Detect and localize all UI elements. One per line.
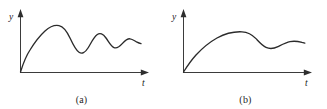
panel-a: y t (a) <box>0 0 163 109</box>
t-axis-label-b: t <box>305 78 308 88</box>
plot-b-canvas: y t <box>164 0 327 109</box>
y-axis-arrow-b <box>181 9 187 17</box>
figure-container: y t (a) y t (b) <box>0 0 327 109</box>
y-axis-label-a: y <box>8 12 14 22</box>
plot-a-canvas: y t <box>0 0 163 109</box>
y-axis-arrow-a <box>18 9 24 17</box>
t-axis-label-a: t <box>142 78 145 88</box>
caption-a: (a) <box>0 94 163 105</box>
curve-b <box>184 32 305 72</box>
t-axis-arrow-b <box>304 70 312 76</box>
y-axis-label-b: y <box>171 12 177 22</box>
t-axis-arrow-a <box>141 70 149 76</box>
panel-b: y t (b) <box>164 0 327 109</box>
caption-b: (b) <box>164 94 327 105</box>
curve-a <box>21 25 142 72</box>
